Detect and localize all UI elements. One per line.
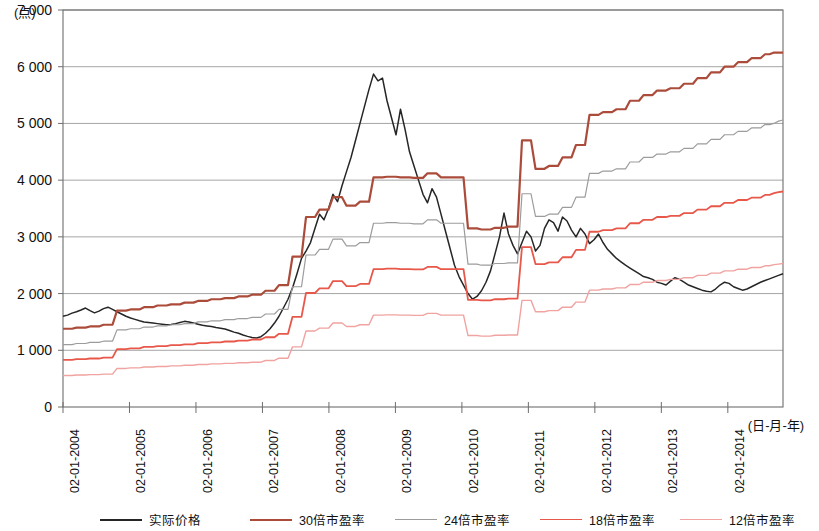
legend-item: 18倍市盈率: [540, 510, 655, 529]
legend-label: 12倍市盈率: [729, 510, 795, 529]
x-tick-label: 02-01-2004: [68, 429, 82, 493]
legend-item: 实际价格: [100, 510, 201, 529]
chart-container: (点) 01 0002 0003 0004 0005 0006 0007 000…: [0, 0, 819, 531]
x-tick-label: 02-01-2009: [400, 429, 414, 493]
series-line-3: [63, 191, 783, 359]
legend-swatch-line: [100, 519, 142, 521]
x-tick-label: 02-01-2008: [334, 429, 348, 493]
legend-swatch-line: [540, 519, 582, 520]
legend-item: 12倍市盈率: [680, 510, 795, 529]
plot-border: [63, 10, 783, 407]
x-tick-label: 02-01-2012: [600, 429, 614, 493]
x-tick-label: 02-01-2011: [533, 430, 547, 493]
legend-label: 24倍市盈率: [444, 510, 510, 529]
legend-swatch-line: [680, 519, 722, 520]
x-tick-label: 02-01-2013: [666, 429, 680, 493]
x-tick-label: 02-01-2006: [201, 429, 215, 493]
legend-label: 实际价格: [149, 510, 201, 529]
series-line-0: [63, 74, 783, 338]
x-tick-label: 02-01-2007: [267, 429, 281, 493]
legend-label: 18倍市盈率: [589, 510, 655, 529]
legend-label: 30倍市盈率: [299, 510, 365, 529]
legend-item: 30倍市盈率: [250, 510, 365, 529]
legend-swatch-line: [395, 519, 437, 520]
series-line-4: [63, 264, 783, 376]
series-line-1: [63, 53, 783, 329]
x-tick-label: 02-01-2005: [134, 429, 148, 493]
legend-item: 24倍市盈率: [395, 510, 510, 529]
x-axis-unit-label: (日-月-年): [748, 415, 804, 434]
series-line-2: [63, 120, 783, 345]
x-tick-label: 02-01-2014: [733, 429, 747, 493]
legend-swatch-line: [250, 519, 292, 521]
x-tick-label: 02-01-2010: [467, 429, 481, 493]
chart-legend: 实际价格30倍市盈率24倍市盈率18倍市盈率12倍市盈率: [0, 508, 819, 531]
